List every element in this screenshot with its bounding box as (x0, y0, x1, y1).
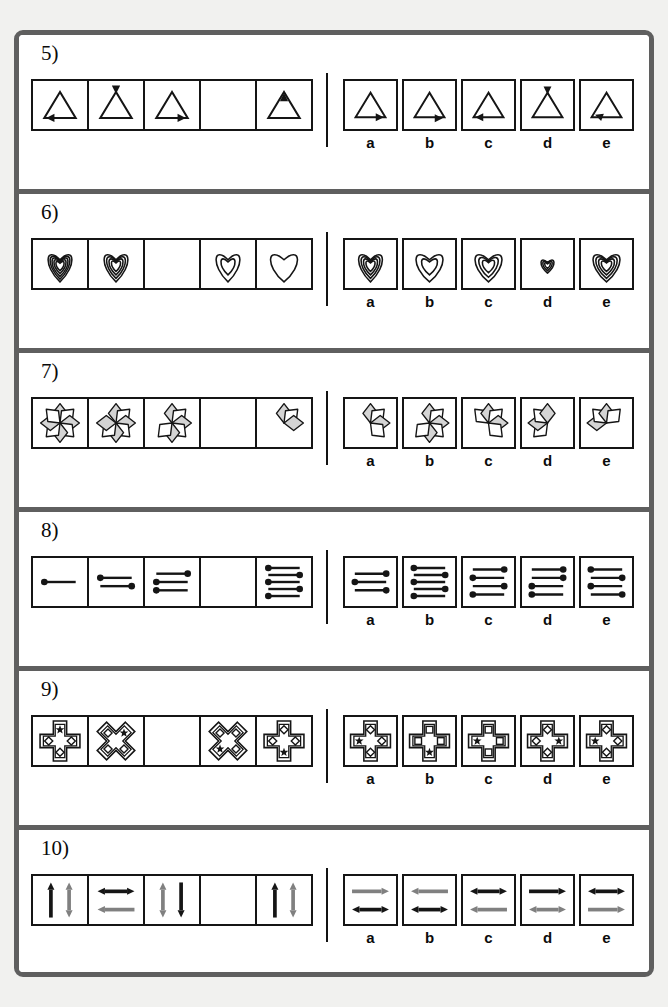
sequence-cell-blank (143, 238, 201, 290)
sequence-cell (87, 715, 145, 767)
option-cell-d[interactable] (520, 556, 575, 608)
option-cell-e[interactable] (579, 397, 634, 449)
option-cell-a[interactable] (343, 556, 398, 608)
option-label-d[interactable]: d (543, 771, 552, 786)
option-label-e[interactable]: e (602, 930, 610, 945)
option-cell-d[interactable] (520, 874, 575, 926)
sequence-cell-blank (199, 556, 257, 608)
sequence-strip (31, 79, 311, 131)
problem-number: 8) (41, 518, 59, 543)
answer-options: abcde (343, 874, 634, 945)
option-cell-c[interactable] (461, 397, 516, 449)
option-cell-a[interactable] (343, 238, 398, 290)
option-cell-b[interactable] (402, 556, 457, 608)
option-label-b[interactable]: b (425, 930, 434, 945)
option-cell-b[interactable] (402, 715, 457, 767)
sequence-strip (31, 556, 311, 608)
sequence-cell (255, 715, 313, 767)
problem-panel-7: 7)abcde (19, 353, 649, 512)
sequence-cell (31, 79, 89, 131)
section-divider (326, 391, 328, 465)
option-cell-b[interactable] (402, 79, 457, 131)
option-label-b[interactable]: b (425, 612, 434, 627)
option-label-c[interactable]: c (484, 771, 492, 786)
option-cell-b[interactable] (402, 238, 457, 290)
answer-options: abcde (343, 715, 634, 786)
option-cell-e[interactable] (579, 79, 634, 131)
option-label-d[interactable]: d (543, 294, 552, 309)
option-cell-c[interactable] (461, 874, 516, 926)
answer-options: abcde (343, 79, 634, 150)
option-label-b[interactable]: b (425, 453, 434, 468)
problem-panel-5: 5)abcde (19, 35, 649, 194)
sequence-cell (31, 715, 89, 767)
option-label-e[interactable]: e (602, 771, 610, 786)
option-cell-e[interactable] (579, 715, 634, 767)
option-cell-a[interactable] (343, 874, 398, 926)
option-cell-d[interactable] (520, 79, 575, 131)
option-cell-a[interactable] (343, 397, 398, 449)
section-divider (326, 550, 328, 624)
answer-options: abcde (343, 397, 634, 468)
option-cell-a[interactable] (343, 715, 398, 767)
sequence-cell (143, 79, 201, 131)
option-label-c[interactable]: c (484, 135, 492, 150)
option-label-b[interactable]: b (425, 135, 434, 150)
problem-panel-6: 6)abcde (19, 194, 649, 353)
sequence-cell-blank (199, 874, 257, 926)
problem-number: 5) (41, 41, 59, 66)
option-cell-a[interactable] (343, 79, 398, 131)
option-cell-e[interactable] (579, 874, 634, 926)
problem-panel-8: 8)abcde (19, 512, 649, 671)
option-label-b[interactable]: b (425, 294, 434, 309)
option-label-e[interactable]: e (602, 453, 610, 468)
problem-panel-9: 9)abcde (19, 671, 649, 830)
option-label-a[interactable]: a (366, 135, 374, 150)
option-cell-d[interactable] (520, 397, 575, 449)
sequence-cell (255, 238, 313, 290)
sequence-cell (87, 874, 145, 926)
option-label-a[interactable]: a (366, 771, 374, 786)
option-label-a[interactable]: a (366, 294, 374, 309)
option-cell-c[interactable] (461, 238, 516, 290)
option-label-b[interactable]: b (425, 771, 434, 786)
option-label-a[interactable]: a (366, 930, 374, 945)
option-label-e[interactable]: e (602, 294, 610, 309)
option-cell-c[interactable] (461, 556, 516, 608)
sequence-cell (143, 556, 201, 608)
sequence-cell (87, 238, 145, 290)
option-label-e[interactable]: e (602, 135, 610, 150)
sequence-cell (87, 556, 145, 608)
option-label-d[interactable]: d (543, 453, 552, 468)
option-label-d[interactable]: d (543, 612, 552, 627)
sequence-cell (255, 556, 313, 608)
option-label-d[interactable]: d (543, 135, 552, 150)
option-cell-c[interactable] (461, 79, 516, 131)
option-label-e[interactable]: e (602, 612, 610, 627)
option-label-a[interactable]: a (366, 453, 374, 468)
problem-number: 6) (41, 200, 59, 225)
sequence-cell (31, 874, 89, 926)
option-label-d[interactable]: d (543, 930, 552, 945)
option-cell-b[interactable] (402, 397, 457, 449)
section-divider (326, 232, 328, 306)
option-cell-e[interactable] (579, 556, 634, 608)
option-cell-d[interactable] (520, 238, 575, 290)
section-divider (326, 868, 328, 942)
option-label-c[interactable]: c (484, 294, 492, 309)
sequence-cell (255, 79, 313, 131)
option-label-a[interactable]: a (366, 612, 374, 627)
option-cell-e[interactable] (579, 238, 634, 290)
option-cell-d[interactable] (520, 715, 575, 767)
option-cell-c[interactable] (461, 715, 516, 767)
sequence-cell (255, 397, 313, 449)
sequence-cell (31, 397, 89, 449)
option-label-c[interactable]: c (484, 612, 492, 627)
answer-options: abcde (343, 238, 634, 309)
option-label-c[interactable]: c (484, 930, 492, 945)
option-label-c[interactable]: c (484, 453, 492, 468)
option-cell-b[interactable] (402, 874, 457, 926)
sequence-cell (199, 715, 257, 767)
sequence-strip (31, 397, 311, 449)
sequence-strip (31, 874, 311, 926)
